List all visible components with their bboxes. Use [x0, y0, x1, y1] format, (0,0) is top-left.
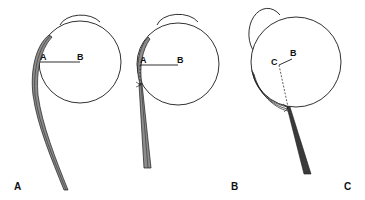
- point-label-a-b: B: [77, 53, 84, 62]
- muscle-b-tail: [139, 84, 151, 168]
- panel-b-drawing: [136, 14, 219, 168]
- panel-c-drawing: [249, 8, 341, 174]
- muscle-c-tail: [287, 107, 311, 174]
- globe-c: [251, 17, 341, 107]
- panel-label-c: C: [344, 182, 351, 192]
- diagram-canvas: [0, 0, 365, 200]
- panel-label-b: B: [231, 182, 238, 192]
- point-label-b-b: B: [177, 56, 184, 65]
- point-label-b-a: A: [140, 56, 147, 65]
- point-label-c-b: B: [290, 49, 297, 58]
- eye-muscle-diagram: A B A B C B A B C: [0, 0, 365, 200]
- point-label-a-a: A: [40, 53, 47, 62]
- point-label-c-c: C: [271, 58, 278, 67]
- panel-a-drawing: [32, 15, 121, 190]
- panel-label-a: A: [14, 182, 21, 192]
